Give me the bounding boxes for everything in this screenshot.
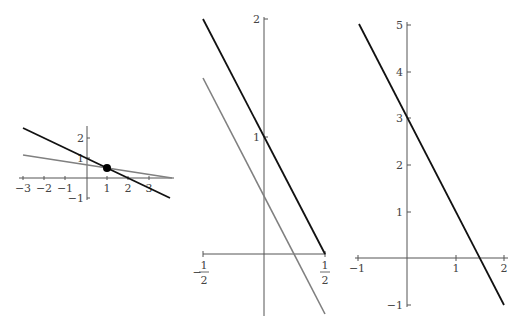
y-tick-label: 2 [396,159,403,172]
x-tick-label: 2 [501,262,508,275]
svg-text:1: 1 [201,259,208,272]
chart-2: 2 1 − 1 2 1 2 [192,13,330,316]
y-tick-label: 5 [396,19,403,32]
svg-text:2: 2 [322,274,329,287]
y-tick-label: 4 [396,66,403,79]
x-tick-label: −2 [36,182,52,195]
y-tick-label: 2 [77,132,84,145]
x-tick-label: −1 [349,262,365,275]
y-tick-label: 1 [396,206,403,219]
y-tick-label: −1 [387,299,403,312]
svg-text:2: 2 [201,274,208,287]
x-tick-label: −3 [15,182,31,195]
y-tick-label: 3 [396,112,403,125]
y-tick-label: −1 [68,192,84,205]
chart-3: −1 1 2 5 4 3 2 1 −1 [349,19,508,312]
svg-text:1: 1 [322,259,329,272]
x-tick-label-pos-half: 1 2 [320,259,330,287]
y-tick-label: 1 [253,131,260,144]
chart-1: −3 −2 −1 1 2 3 2 1 −1 [15,126,174,205]
x-tick-label: 2 [125,182,132,195]
x-tick-label: 1 [453,262,460,275]
figure-canvas: −3 −2 −1 1 2 3 2 1 −1 2 1 − 1 2 1 [0,0,526,331]
intersection-point [103,164,111,172]
series-line-gray [23,155,172,178]
y-tick-label: 2 [253,13,260,26]
x-tick-label-neg-half: − 1 2 [192,259,209,287]
series-line-black [359,24,504,305]
x-tick-label: 1 [104,182,111,195]
